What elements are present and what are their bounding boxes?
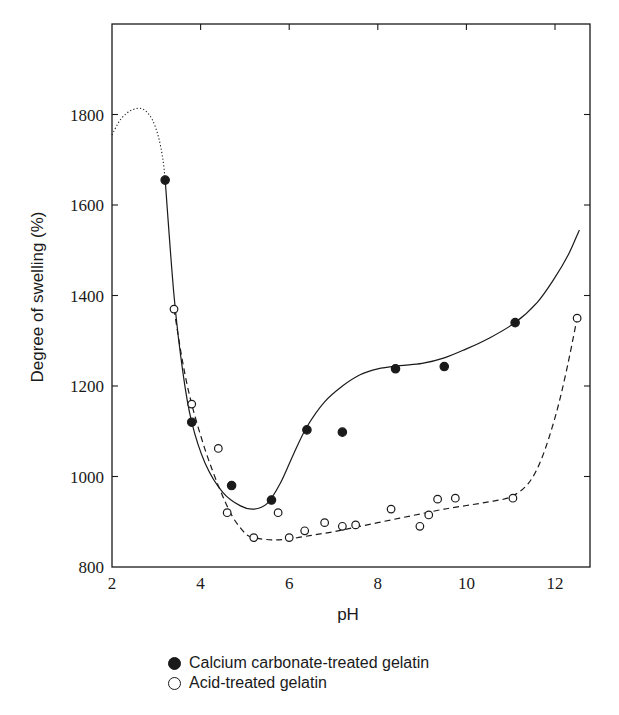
y-tick-label: 800 [79, 558, 105, 577]
y-tick-label: 1600 [70, 196, 104, 215]
series-curves [112, 108, 579, 540]
y-tick-label: 1800 [70, 106, 104, 125]
y-tick-label: 1400 [70, 287, 104, 306]
acid-data-point [285, 534, 293, 542]
calcium-data-point [440, 362, 448, 370]
acid-data-point [416, 522, 424, 530]
legend-label-calcium: Calcium carbonate-treated gelatin [189, 654, 429, 672]
acid-data-point [452, 494, 460, 502]
x-tick-label: 6 [285, 574, 294, 593]
legend-item-calcium: Calcium carbonate-treated gelatin [168, 653, 429, 673]
acid-data-point [339, 522, 347, 530]
acid-data-point [573, 314, 581, 322]
plot-border [112, 24, 590, 567]
y-tick-label: 1000 [70, 468, 104, 487]
x-tick-label: 4 [196, 574, 205, 593]
acid-data-point [215, 445, 223, 453]
calcium-data-point [267, 496, 275, 504]
calcium-data-point [161, 176, 169, 184]
series-markers [161, 176, 581, 541]
x-tick-label: 12 [547, 574, 564, 593]
calcium-data-point [303, 426, 311, 434]
swelling-chart: 24681012 80010001200140016001800 pH Degr… [0, 0, 619, 715]
acid-data-point [434, 495, 442, 503]
legend-label-acid: Acid-treated gelatin [189, 674, 327, 692]
plot-frame [112, 24, 590, 567]
calcium-data-point [188, 418, 196, 426]
y-axis-ticks: 80010001200140016001800 [70, 106, 590, 578]
x-tick-label: 8 [374, 574, 383, 593]
calcium-data-point [227, 481, 235, 489]
acid-data-point [223, 509, 231, 517]
acid-fit-curve [174, 309, 577, 540]
y-tick-label: 1200 [70, 377, 104, 396]
calcium-data-point [511, 318, 519, 326]
legend: Calcium carbonate-treated gelatin Acid-t… [168, 653, 429, 693]
acid-data-point [425, 511, 433, 519]
legend-item-acid: Acid-treated gelatin [168, 673, 429, 693]
x-axis-title: pH [337, 605, 359, 624]
open-circle-icon [168, 677, 181, 690]
acid-data-point [352, 521, 360, 529]
acid-data-point [250, 534, 258, 542]
acid-data-point [170, 305, 178, 313]
acid-data-point [387, 505, 395, 513]
calcium-data-point [391, 365, 399, 373]
acid-data-point [321, 519, 329, 527]
y-axis-title: Degree of swelling (%) [28, 211, 47, 382]
calcium-fit-curve [165, 180, 579, 509]
x-tick-label: 2 [108, 574, 117, 593]
calcium-extrapolated-curve [112, 108, 165, 180]
filled-circle-icon [168, 657, 181, 670]
acid-data-point [188, 400, 196, 408]
calcium-data-point [338, 428, 346, 436]
acid-data-point [274, 509, 282, 517]
acid-data-point [509, 494, 517, 502]
acid-data-point [301, 527, 309, 535]
x-tick-label: 10 [458, 574, 475, 593]
